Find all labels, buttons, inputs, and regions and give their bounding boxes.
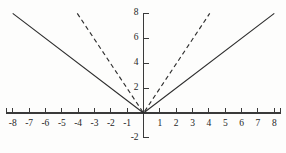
y-tick-label: 8 — [134, 9, 139, 19]
x-tick-label: 1 — [158, 119, 163, 129]
x-tick-label: -7 — [25, 119, 33, 129]
x-tick-label: -6 — [42, 119, 50, 129]
y-tick-label: -2 — [131, 133, 139, 143]
x-tick-label: 2 — [174, 119, 179, 129]
y-tick-label: 2 — [134, 83, 139, 93]
x-tick-label: 7 — [256, 119, 261, 129]
x-tick-label: 4 — [207, 119, 212, 129]
x-tick-label: 5 — [223, 119, 228, 129]
x-tick-label: 3 — [190, 119, 195, 129]
y-tick-label: 6 — [134, 34, 139, 44]
x-tick-label: -2 — [107, 119, 115, 129]
x-tick-label: -5 — [58, 119, 66, 129]
y-tick-label: 4 — [134, 58, 139, 68]
x-tick-label: -4 — [74, 119, 82, 129]
x-tick-label: -3 — [91, 119, 99, 129]
x-tick-label: 6 — [239, 119, 244, 129]
x-tick-label: 8 — [272, 119, 277, 129]
plot-area — [0, 0, 286, 153]
x-tick-label: -1 — [123, 119, 131, 129]
graph-figure: -8-7-6-5-4-3-2-112345678 -22468 — [0, 0, 286, 153]
x-tick-label: -8 — [9, 119, 17, 129]
